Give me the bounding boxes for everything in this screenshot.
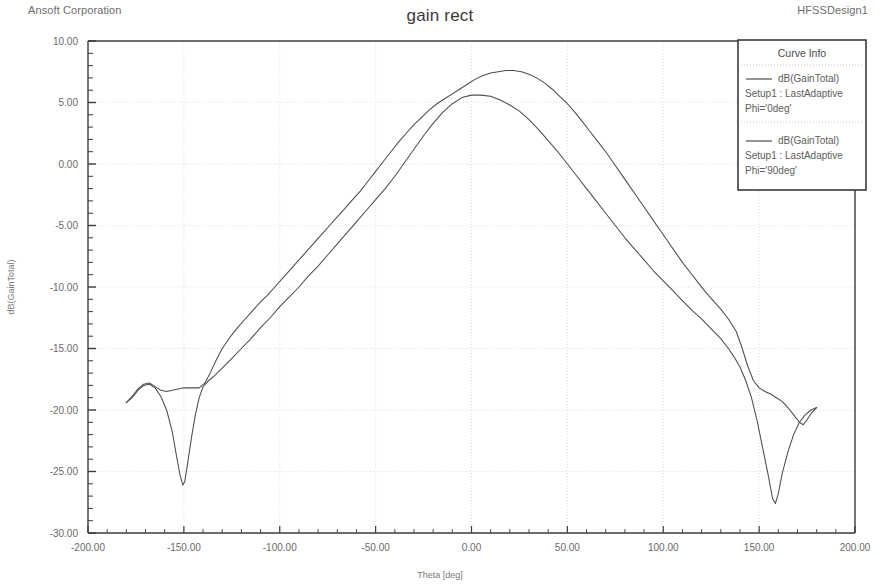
y-axis-tick-labels: 10.005.000.00-5.00-10.00-15.00-20.00-25.…	[50, 36, 79, 539]
x-tick-label: 0.00	[462, 542, 482, 553]
y-tick-label: 5.00	[59, 97, 79, 108]
y-tick-label: -5.00	[55, 220, 78, 231]
x-axis-title: Theta [deg]	[417, 570, 463, 580]
legend-title: Curve Info	[778, 47, 827, 59]
y-tick-label: -10.00	[50, 282, 79, 293]
x-tick-label: 200.00	[840, 542, 871, 553]
x-tick-label: -150.00	[167, 542, 201, 553]
x-tick-label: -200.00	[71, 542, 105, 553]
y-tick-label: 0.00	[59, 159, 79, 170]
legend-entry-setup: Setup1 : LastAdaptive	[745, 150, 843, 161]
x-axis-tick-labels: -200.00-150.00-100.00-50.000.0050.00100.…	[71, 542, 871, 553]
x-tick-label: 150.00	[744, 542, 775, 553]
x-tick-label: -50.00	[361, 542, 390, 553]
legend-entry-setup: Setup1 : LastAdaptive	[745, 88, 843, 99]
gain-rect-plot-window: Ansoft Corporation HFSSDesign1 gain rect…	[0, 0, 880, 587]
y-tick-label: -25.00	[50, 466, 79, 477]
y-tick-label: -15.00	[50, 343, 79, 354]
chart-title: gain rect	[0, 6, 880, 26]
x-tick-label: 100.00	[648, 542, 679, 553]
x-tick-label: -100.00	[263, 542, 297, 553]
chart-canvas: -200.00-150.00-100.00-50.000.0050.00100.…	[0, 0, 880, 587]
x-tick-label: 50.00	[555, 542, 580, 553]
legend-entry-name: dB(GainTotal)	[778, 73, 839, 84]
legend-entry-name: dB(GainTotal)	[778, 135, 839, 146]
y-tick-label: -30.00	[50, 528, 79, 539]
y-axis-title: dB(GainTotal)	[6, 259, 16, 314]
y-tick-label: 10.00	[53, 36, 78, 47]
legend-entry-condition: Phi='0deg'	[745, 103, 791, 114]
legend-box[interactable]: Curve InfodB(GainTotal)Setup1 : LastAdap…	[738, 40, 866, 190]
y-tick-label: -20.00	[50, 405, 79, 416]
legend-entry-condition: Phi='90deg'	[745, 165, 797, 176]
